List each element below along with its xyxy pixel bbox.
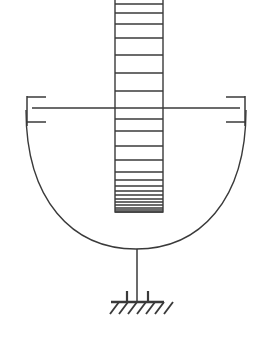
diagram-root — [0, 0, 272, 344]
column-group — [115, 0, 163, 212]
engineering-diagram — [0, 0, 272, 344]
